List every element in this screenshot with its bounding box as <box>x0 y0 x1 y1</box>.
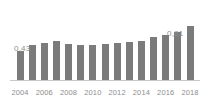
bar[interactable] <box>187 26 194 80</box>
bar-slot <box>87 20 99 80</box>
x-tick-label: 2004 <box>12 88 29 97</box>
x-tick-label: 2014 <box>133 88 150 97</box>
data-label-first: 0,43 <box>14 44 30 53</box>
bar[interactable] <box>114 43 121 80</box>
bar-slot <box>184 20 196 80</box>
bar[interactable] <box>53 41 60 80</box>
bar-slot <box>75 20 87 80</box>
x-axis-line <box>10 80 200 81</box>
bar[interactable] <box>77 45 84 80</box>
bar-slot <box>63 20 75 80</box>
bar[interactable] <box>150 37 157 80</box>
x-tick-label: 2008 <box>60 88 77 97</box>
bar[interactable] <box>89 45 96 80</box>
x-tick-label: 2010 <box>84 88 101 97</box>
bar-slot <box>38 20 50 80</box>
bar-slot <box>99 20 111 80</box>
bar-chart: 0,43 0,81 200420062008201020122014201620… <box>0 0 205 106</box>
bar[interactable] <box>138 41 145 80</box>
bar[interactable] <box>17 51 24 80</box>
data-label-last: 0,81 <box>167 29 183 38</box>
x-axis-ticks: 20042006200820102012201420162018 <box>14 88 196 102</box>
x-tick-label: 2006 <box>36 88 53 97</box>
x-tick-label: 2016 <box>157 88 174 97</box>
bar[interactable] <box>162 35 169 80</box>
bar[interactable] <box>102 44 109 80</box>
bar-slot <box>135 20 147 80</box>
bar[interactable] <box>41 43 48 80</box>
x-tick-label: 2018 <box>181 88 198 97</box>
bar-slot <box>123 20 135 80</box>
bar[interactable] <box>65 44 72 80</box>
bar[interactable] <box>174 32 181 80</box>
bar[interactable] <box>126 42 133 80</box>
bar-slot <box>111 20 123 80</box>
bar-slot <box>50 20 62 80</box>
x-tick-label: 2012 <box>109 88 126 97</box>
bar-slot <box>148 20 160 80</box>
